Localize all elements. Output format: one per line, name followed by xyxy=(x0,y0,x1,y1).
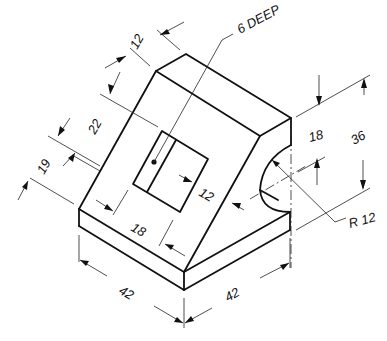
dim-36-18: 36 18 xyxy=(296,75,370,230)
svg-text:42: 42 xyxy=(117,283,138,304)
label-36: 36 xyxy=(348,127,369,148)
note-6-deep: 6 DEEP xyxy=(234,2,282,37)
isometric-drawing: 6 DEEP 12 22 19 18 xyxy=(0,0,387,341)
svg-text:42: 42 xyxy=(222,284,243,305)
svg-text:12: 12 xyxy=(197,185,218,206)
svg-text:18: 18 xyxy=(129,220,150,241)
svg-text:22: 22 xyxy=(84,116,105,138)
dim-22: 22 xyxy=(48,72,158,166)
label-r12: R 12 xyxy=(347,209,378,231)
label-18: 18 xyxy=(307,126,326,144)
pocket xyxy=(133,34,233,212)
svg-text:12: 12 xyxy=(127,31,148,52)
dim-radius: R 12 xyxy=(272,160,378,231)
svg-text:19: 19 xyxy=(34,156,54,176)
dim-42-left: 42 xyxy=(79,235,184,328)
dim-19: 19 xyxy=(18,153,100,204)
